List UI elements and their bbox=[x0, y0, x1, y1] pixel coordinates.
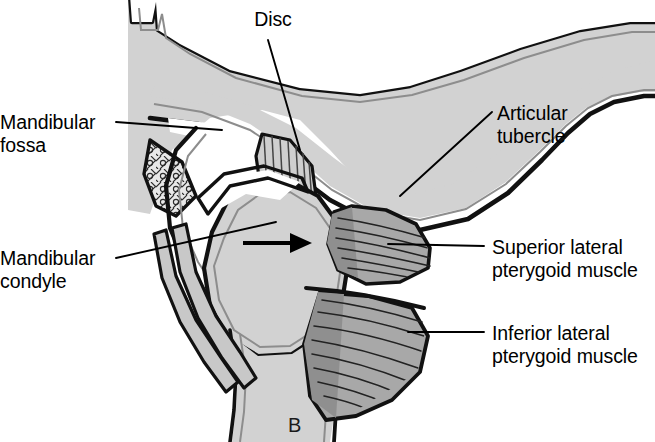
tmj-anatomy-illustration bbox=[0, 0, 655, 442]
panel-letter: B bbox=[288, 414, 301, 437]
label-mandibular-condyle-line1: Mandibular bbox=[0, 247, 114, 270]
label-articular-tubercle-line1: Articular bbox=[497, 102, 652, 125]
label-mandibular-fossa-line1: Mandibular bbox=[0, 111, 114, 134]
label-inferior-lateral-pterygoid-line1: Inferior lateral bbox=[492, 322, 655, 345]
label-superior-lateral-pterygoid-line1: Superior lateral bbox=[492, 236, 655, 259]
tmj-figure-panel-b: Disc Mandibular fossa Mandibular condyle… bbox=[0, 0, 655, 442]
label-mandibular-fossa-line2: fossa bbox=[0, 134, 114, 157]
label-mandibular-condyle-line2: condyle bbox=[0, 270, 114, 293]
label-superior-lateral-pterygoid-line2: pterygoid muscle bbox=[492, 259, 655, 282]
label-articular-tubercle-line2: tubercle bbox=[497, 125, 652, 148]
inferior-lateral-pterygoid-muscle bbox=[304, 288, 428, 420]
label-disc: Disc bbox=[238, 8, 308, 31]
label-inferior-lateral-pterygoid-line2: pterygoid muscle bbox=[492, 345, 655, 368]
